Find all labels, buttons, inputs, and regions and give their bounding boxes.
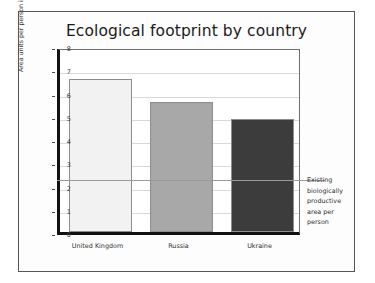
annotation-line-4: area per [307,207,355,218]
annotation-line-3: productive [307,196,355,207]
y-axis-title: Area units per person in 1996 [17,0,24,72]
annotation-line-2: biologically [307,186,355,197]
y-tick-mark [52,142,55,143]
x-tick-label: United Kingdom [72,242,123,250]
y-tick-mark [52,72,55,73]
reference-line [57,180,325,181]
bar [231,119,294,232]
reference-line-annotation: Existing biologically productive area pe… [307,175,355,228]
annotation-line-5: person [307,217,355,228]
chart-figure: Ecological footprint by country Area uni… [18,11,355,272]
bar [150,102,213,232]
y-tick-mark [52,49,55,50]
y-tick-mark [52,165,55,166]
gridline [60,73,299,74]
plot-area [57,49,300,235]
y-tick-mark [52,212,55,213]
x-tick-label: Ukraine [247,242,272,250]
bar [69,79,132,232]
x-tick-label: Russia [168,242,189,250]
y-tick-mark [52,119,55,120]
y-tick-mark [52,189,55,190]
chart-title: Ecological footprint by country [19,22,354,40]
y-tick-mark [52,96,55,97]
y-tick-mark [52,235,55,236]
annotation-line-1: Existing [307,175,355,186]
